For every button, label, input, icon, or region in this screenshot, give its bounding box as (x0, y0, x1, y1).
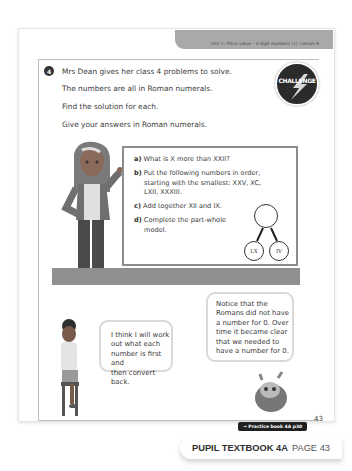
part-text: Put the following numbers in order, (144, 169, 260, 177)
teacher-illustration (60, 140, 122, 285)
part-whole-whole[interactable] (254, 204, 278, 228)
bubble-line: have a number for 0. (216, 347, 292, 356)
bubble-line: that we needed to (216, 338, 292, 347)
problem-b: b) Put the following numbers in order, (134, 169, 260, 179)
part-whole-part: IV (269, 241, 289, 261)
bubble-line: I think I will work (111, 331, 171, 340)
part-letter: a) (134, 155, 141, 163)
part-letter: b) (134, 169, 142, 177)
bubble-line: Romans did not have (216, 309, 292, 318)
challenge-label: CHALLENGE (277, 77, 317, 84)
part-letter: c) (134, 202, 141, 210)
problem-d-line2: model. (144, 226, 167, 236)
bubble-line: out what each (111, 340, 171, 349)
footer-page: PAGE 43 (292, 443, 330, 453)
bubble-line: number is first and (111, 350, 171, 369)
part-whole-part: LX (244, 241, 264, 261)
problem-c: c) Add together XII and IX. (134, 202, 222, 212)
footer-label: PUPIL TEXTBOOK 4A PAGE 43 (180, 437, 342, 459)
part-letter: d) (134, 216, 142, 224)
challenge-badge: CHALLENGE (275, 62, 319, 106)
floor-band (52, 268, 300, 285)
problem-a: a) What is X more than XXII? (134, 155, 230, 165)
intro-line: Find the solution for each. (62, 102, 158, 111)
footer-title: PUPIL TEXTBOOK 4A (192, 443, 288, 453)
problem-box: a) What is X more than XXII? b) Put the … (122, 146, 298, 266)
part-text: What is X more than XXII? (144, 155, 230, 163)
monster-illustration (250, 370, 292, 414)
unit-label: Unit 1: Place value – 4-digit numbers (1… (211, 41, 319, 46)
bubble-line: then convert back. (111, 369, 171, 388)
unit-header-tab: Unit 1: Place value – 4-digit numbers (1… (175, 30, 333, 49)
girl-speech-bubble: I think I will work out what each number… (99, 320, 173, 372)
intro-line: The numbers are all in Roman numerals. (62, 84, 213, 93)
part-text: Add together XII and IX. (143, 202, 222, 210)
bubble-line: time it became clear (216, 328, 292, 337)
problem-b-line2: starting with the smallest: XXV, XC, (144, 179, 261, 189)
girl-illustration (56, 318, 84, 418)
page-number: 43 (314, 415, 323, 423)
intro-line: Mrs Dean gives her class 4 problems to s… (62, 67, 232, 76)
practice-book-link[interactable]: → Practice book 4A p30 (238, 422, 307, 431)
problem-b-line3: LXII, XXXIII. (144, 188, 182, 198)
lightning-bolt-icon (277, 64, 317, 104)
bubble-line: a number for 0. Over (216, 319, 292, 328)
bubble-line: Notice that the (216, 300, 292, 309)
problem-d: d) Complete the part-whole (134, 216, 226, 226)
intro-line: Give your answers in Roman numerals. (62, 120, 207, 129)
question-number-badge: 4 (44, 66, 54, 76)
monster-speech-bubble: Notice that the Romans did not have a nu… (206, 292, 294, 362)
part-text: Complete the part-whole (144, 216, 226, 224)
